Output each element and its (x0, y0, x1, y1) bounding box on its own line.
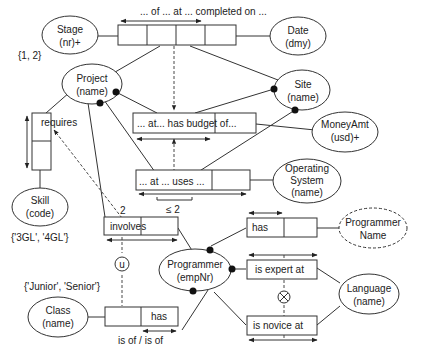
fact-uses-reading: ... at ... uses ... (139, 176, 205, 187)
fact-expert[interactable]: is expert at (247, 255, 317, 279)
svg-text:System: System (290, 175, 323, 186)
fact-has-class-reverse: is of / is of (118, 335, 163, 346)
svg-text:(name): (name) (291, 187, 323, 198)
svg-text:(name): (name) (353, 296, 385, 307)
svg-text:(nr)+: (nr)+ (59, 37, 81, 48)
fact-completed[interactable]: ... of ... at ... completed on ... (118, 6, 267, 45)
fact-novice-reading: is novice at (253, 320, 303, 331)
entity-os[interactable]: Operating System (name) (273, 159, 341, 203)
entity-money[interactable]: MoneyAmt (usd)+ (312, 112, 378, 152)
fact-budget[interactable]: ... at... has budget of... (133, 113, 256, 139)
svg-text:(usd)+: (usd)+ (331, 132, 360, 143)
svg-text:Programmer: Programmer (167, 259, 223, 270)
skill-values: {'3GL', '4GL'} (11, 232, 69, 243)
involves-frequency: 2 (120, 205, 126, 216)
svg-text:u: u (119, 259, 125, 270)
fact-novice[interactable]: is novice at (247, 316, 317, 340)
entity-programmer[interactable]: Programmer (empNr) (159, 249, 231, 291)
entity-stage[interactable]: Stage (nr)+ (42, 16, 98, 54)
entity-class[interactable]: Class (name) (28, 297, 88, 337)
entity-date[interactable]: Date (dmy) (270, 17, 326, 55)
entity-programmer-name[interactable]: Programmer Name (339, 208, 407, 248)
svg-text:Skill: Skill (31, 195, 49, 206)
entity-skill[interactable]: Skill (code) (12, 188, 68, 226)
fact-budget-reading: ... at... has budget of... (137, 118, 237, 129)
exclusion-constraint (278, 291, 290, 303)
svg-text:Stage: Stage (57, 24, 84, 35)
fact-has-class[interactable]: has is of / is of (105, 307, 178, 346)
svg-text:Programmer: Programmer (345, 217, 401, 228)
fact-has-name-reading: has (252, 222, 268, 233)
svg-text:Project: Project (76, 73, 107, 84)
svg-text:Class: Class (45, 305, 70, 316)
uses-frequency: ≤ 2 (166, 204, 180, 215)
fact-requires-reading: requires (41, 117, 77, 128)
svg-text:Date: Date (287, 25, 309, 36)
fact-involves-reading: involves (110, 221, 146, 232)
fact-has-name[interactable]: has (247, 213, 317, 237)
fact-has-class-reading: has (151, 311, 167, 322)
entity-project[interactable]: Project (name) (62, 64, 122, 104)
svg-text:Language: Language (347, 283, 392, 294)
svg-text:(name): (name) (76, 86, 108, 97)
svg-text:(dmy): (dmy) (285, 38, 311, 49)
svg-text:Site: Site (294, 79, 312, 90)
orm-diagram: ... of ... at ... completed on ... ... a… (0, 0, 424, 349)
entity-language[interactable]: Language (name) (339, 274, 399, 314)
svg-text:Operating: Operating (285, 163, 329, 174)
class-values: {'Junior', 'Senior'} (24, 281, 101, 292)
unique-constraint: u (115, 257, 129, 271)
entity-site[interactable]: Site (name) (274, 70, 330, 110)
fact-expert-reading: is expert at (255, 264, 304, 275)
svg-text:MoneyAmt: MoneyAmt (321, 119, 369, 130)
svg-text:(name): (name) (287, 92, 319, 103)
svg-text:Name: Name (360, 230, 387, 241)
stage-values: {1, 2} (18, 50, 42, 61)
svg-text:(name): (name) (42, 318, 74, 329)
svg-text:(code): (code) (26, 208, 54, 219)
fact-completed-reading: ... of ... at ... completed on ... (140, 6, 267, 17)
fact-uses[interactable]: ≤ 2 ... at ... uses ... (136, 170, 250, 215)
fact-requires[interactable]: requires (27, 113, 77, 170)
svg-text:(empNr): (empNr) (177, 272, 214, 283)
